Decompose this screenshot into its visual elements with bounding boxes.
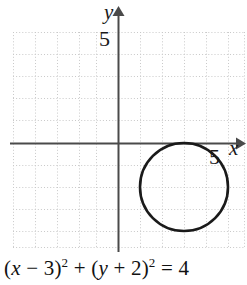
grid-lines: [13, 32, 245, 248]
coordinate-plane: y x 5 5: [0, 0, 247, 252]
y-axis-tick-label-5: 5: [99, 28, 110, 50]
eq-equals-sign: =: [156, 256, 179, 280]
figure-container: y x 5 5 (x − 3)2 + (y + 2)2 = 4: [0, 0, 247, 285]
equation-caption: (x − 3)2 + (y + 2)2 = 4: [4, 252, 247, 285]
x-axis-tick-label-5: 5: [209, 146, 220, 168]
y-axis: [113, 6, 125, 252]
eq-exponent-2: 2: [149, 255, 156, 270]
y-axis-label: y: [104, 2, 113, 23]
graph-svg: [0, 0, 247, 252]
x-axis-label: x: [229, 138, 238, 159]
eq-variable-y: y: [98, 256, 108, 280]
eq-close-paren-1: ): [54, 256, 61, 280]
eq-inner-plus-sign: +: [108, 256, 131, 280]
eq-plus-sign: +: [68, 256, 91, 280]
y-axis-arrowhead: [113, 6, 125, 16]
eq-close-paren-2: ): [142, 256, 149, 280]
eq-number-3: 3: [44, 256, 55, 280]
eq-minus-sign: −: [21, 256, 44, 280]
eq-result-4: 4: [179, 256, 190, 280]
eq-number-2: 2: [131, 256, 142, 280]
equation-expression: (x − 3)2 + (y + 2)2 = 4: [4, 256, 189, 281]
eq-variable-x: x: [11, 256, 21, 280]
